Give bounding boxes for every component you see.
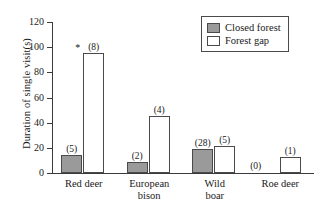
legend: Closed forest Forest gap: [201, 16, 289, 52]
x-axis-label-line: Roe deer: [261, 178, 299, 190]
bar-closed-forest: (2): [127, 162, 148, 173]
y-axis-tick-label: 100: [29, 40, 44, 53]
legend-swatch-icon-closed-forest: [207, 23, 220, 33]
y-axis-tick-label: 80: [34, 65, 44, 78]
bar-forest-gap: (1): [280, 157, 301, 173]
x-axis-line: [52, 173, 314, 174]
y-axis-tick: 20: [47, 148, 52, 149]
y-axis-tick-label: 40: [34, 116, 44, 129]
bar-sample-count-label: (5): [219, 135, 230, 146]
bar-closed-forest: (28): [192, 149, 213, 173]
y-axis-tick-label: 120: [29, 15, 44, 28]
y-axis-tick: 80: [47, 72, 52, 73]
y-axis-tick-label: 20: [34, 141, 44, 154]
bar-forest-gap: (5): [214, 146, 235, 173]
y-axis-tick-label: 0: [39, 166, 44, 179]
bar-sample-count-label: (5): [66, 144, 77, 155]
bar-sample-count-label: (0): [250, 161, 261, 172]
legend-swatch-icon-forest-gap: [207, 36, 220, 46]
bar-closed-forest: (5): [61, 155, 82, 173]
bar-sample-count-label: (28): [195, 138, 211, 149]
y-axis-tick: 60: [47, 98, 52, 99]
y-axis-tick: 40: [47, 123, 52, 124]
bar-chart: Duration of single visit(s) 020406080100…: [0, 0, 324, 216]
x-axis-label-line: Wild: [204, 178, 225, 190]
bar-sample-count-label: (2): [132, 151, 143, 162]
y-axis-tick: 100: [47, 47, 52, 48]
bar-forest-gap: *(8): [83, 53, 104, 173]
bar-sample-count-label: (1): [285, 146, 296, 157]
y-axis-line: [52, 22, 53, 173]
y-axis-tick-label: 60: [34, 91, 44, 104]
legend-item-closed-forest: Closed forest: [207, 21, 281, 34]
y-axis-title: Duration of single visit(s): [21, 14, 32, 174]
legend-label-forest-gap: Forest gap: [225, 35, 269, 47]
y-axis-tick: 120: [47, 22, 52, 23]
significance-marker: *: [75, 42, 80, 53]
x-axis-label-line: bison: [129, 190, 169, 202]
x-axis-label-line: Red deer: [65, 178, 103, 190]
y-axis-tick: 0: [47, 173, 52, 174]
legend-label-closed-forest: Closed forest: [225, 22, 281, 34]
x-axis-label-roe-deer: Roe deer: [261, 178, 299, 190]
bar-sample-count-label: (8): [88, 42, 99, 53]
legend-item-forest-gap: Forest gap: [207, 34, 281, 47]
x-axis-label-wild-boar: Wildboar: [204, 178, 225, 202]
x-axis-label-european-bison: Europeanbison: [129, 178, 169, 202]
bar-forest-gap: (4): [149, 116, 170, 173]
x-axis-label-red-deer: Red deer: [65, 178, 103, 190]
x-axis-label-line: European: [129, 178, 169, 190]
bar-sample-count-label: (4): [154, 105, 165, 116]
x-axis-label-line: boar: [204, 190, 225, 202]
